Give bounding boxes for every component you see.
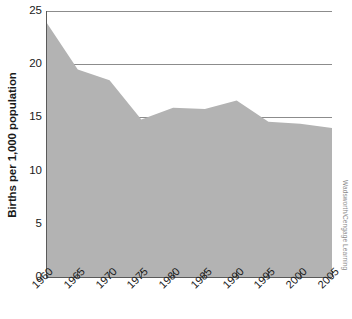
y-axis-title-label: Births per 1,000 population — [6, 72, 18, 218]
chart-figure: Births per 1,000 population 0510152025 1… — [0, 0, 352, 319]
y-axis-title: Births per 1,000 population — [0, 0, 24, 290]
area-series — [46, 22, 332, 277]
plot-area — [46, 11, 332, 277]
x-axis-tick-labels: 1960196519701975198019851990199520002005 — [0, 279, 352, 319]
y-tick-label: 10 — [22, 165, 42, 177]
chart-svg — [46, 11, 332, 277]
y-tick-label: 25 — [22, 5, 42, 17]
y-tick-label: 20 — [22, 58, 42, 70]
source-credit: Wadsworth/Cengage Learning — [339, 180, 351, 300]
y-tick-label: 15 — [22, 111, 42, 123]
y-tick-label: 5 — [22, 218, 42, 230]
source-credit-label: Wadsworth/Cengage Learning — [342, 180, 349, 270]
area-fill — [46, 22, 332, 277]
